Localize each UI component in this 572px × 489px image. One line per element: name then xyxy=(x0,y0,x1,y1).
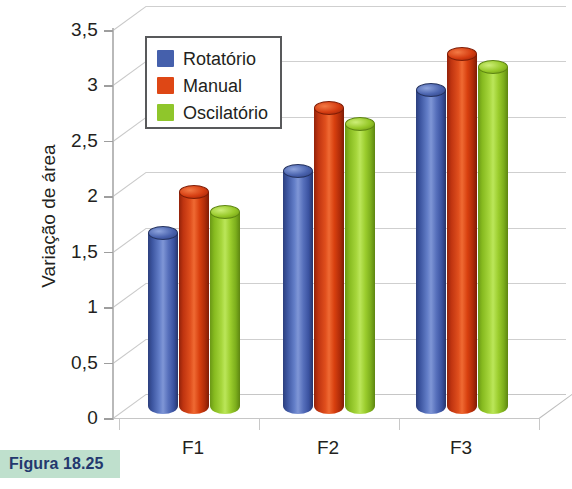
bar-body xyxy=(210,212,240,414)
bar-f1-green xyxy=(210,212,240,414)
chart-legend: Rotatório Manual Oscilatório xyxy=(145,36,282,129)
x-axis-tick xyxy=(119,418,120,430)
y-tick-mark xyxy=(104,307,113,309)
y-tick-label: 3,5 xyxy=(36,20,98,39)
legend-swatch-red-icon xyxy=(157,77,174,94)
gridline-depth xyxy=(113,62,147,87)
x-category-label-f1: F1 xyxy=(148,437,238,459)
bar-top-cap xyxy=(416,83,446,97)
y-tick-label: 0,5 xyxy=(36,353,98,372)
figure-caption-badge: Figura 18.25 xyxy=(0,450,120,478)
gridline-depth xyxy=(113,394,147,419)
bar-top-cap xyxy=(478,60,508,74)
legend-item-rotatorio: Rotatório xyxy=(157,45,280,72)
bar-body xyxy=(148,233,178,414)
y-tick-mark xyxy=(104,363,113,365)
bar-top-cap xyxy=(179,185,209,199)
x-axis-tick xyxy=(539,418,540,430)
bar-f3-green xyxy=(478,67,508,414)
floor-right-edge xyxy=(539,394,572,419)
bar-body xyxy=(314,108,344,414)
figure-caption-text: Figura 18.25 xyxy=(9,455,104,473)
floor-front-edge xyxy=(113,418,539,419)
y-tick-label: 0 xyxy=(36,408,98,427)
bar-f2-green xyxy=(345,124,375,414)
y-tick-mark xyxy=(104,30,113,32)
gridline-depth xyxy=(113,283,147,308)
gridline-depth xyxy=(113,339,147,364)
bar-f3-red xyxy=(447,54,477,414)
bar-top-cap xyxy=(283,164,313,178)
y-tick-label: 3 xyxy=(36,75,98,94)
bar-f3-blue xyxy=(416,90,446,414)
bar-body xyxy=(345,124,375,414)
bar-f2-blue xyxy=(283,171,313,414)
x-category-label-f2: F2 xyxy=(283,437,373,459)
gridline-depth xyxy=(113,6,147,31)
gridline-horizontal xyxy=(146,6,566,7)
gridline-depth xyxy=(113,172,147,197)
legend-item-manual: Manual xyxy=(157,72,280,99)
bar-top-cap xyxy=(314,101,344,115)
bar-body xyxy=(478,67,508,414)
legend-swatch-blue-icon xyxy=(157,50,174,67)
bar-f1-blue xyxy=(148,233,178,414)
x-category-label-f3: F3 xyxy=(416,437,506,459)
bar-f1-red xyxy=(179,192,209,414)
legend-label-oscilatorio: Oscilatório xyxy=(183,104,268,122)
legend-item-oscilatorio: Oscilatório xyxy=(157,99,280,126)
y-axis-title: Variação de área xyxy=(38,106,60,326)
x-axis-tick xyxy=(399,418,400,430)
legend-label-manual: Manual xyxy=(183,77,242,95)
bar-body xyxy=(283,171,313,414)
x-axis-tick xyxy=(259,418,260,430)
y-tick-mark xyxy=(104,141,113,143)
bar-f2-red xyxy=(314,108,344,414)
gridline-depth xyxy=(113,228,147,253)
y-tick-mark xyxy=(104,418,113,420)
bar-body xyxy=(416,90,446,414)
legend-label-rotatorio: Rotatório xyxy=(183,50,256,68)
y-tick-mark xyxy=(104,85,113,87)
legend-swatch-green-icon xyxy=(157,104,174,121)
gridline-depth xyxy=(113,117,147,142)
y-tick-mark xyxy=(104,252,113,254)
y-tick-mark xyxy=(104,196,113,198)
bar-body xyxy=(179,192,209,414)
bar-top-cap xyxy=(148,226,178,240)
bar-top-cap xyxy=(210,205,240,219)
bar-body xyxy=(447,54,477,414)
